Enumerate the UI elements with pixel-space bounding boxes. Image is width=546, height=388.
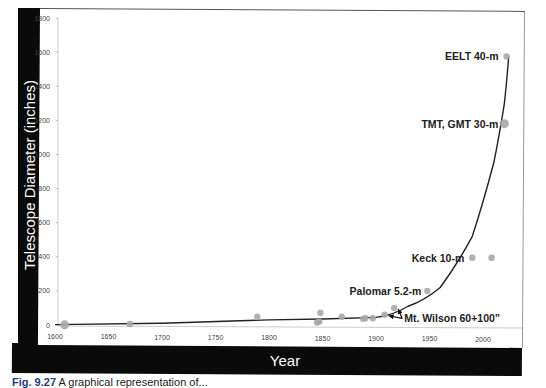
data-point [391, 305, 397, 311]
data-point [127, 321, 133, 327]
x-tick-label: 1850 [315, 335, 331, 342]
annotation-label: EELT 40-m [445, 50, 498, 62]
x-tick-label: 1600 [47, 333, 63, 340]
y-axis-label: Telescope Diameter (inches) [21, 80, 38, 270]
y-tick-label: 0 [46, 322, 50, 329]
x-tick-label: 1900 [368, 335, 384, 342]
x-tick-label: 2000 [475, 336, 491, 343]
y-tick-label: 800 [38, 185, 50, 192]
y-tick-label: 1800 [34, 15, 50, 22]
annotation-label: Mt. Wilson 60+100” [404, 312, 500, 324]
x-tick-label: 1750 [208, 334, 224, 341]
data-point [339, 314, 345, 320]
x-tick-label: 1950 [422, 335, 438, 342]
data-point [503, 53, 509, 59]
data-point [60, 320, 69, 329]
data-point [424, 288, 430, 294]
data-point [254, 313, 260, 319]
annotation-label: Keck 10-m [412, 252, 465, 264]
caption-text: A graphical representation of... [58, 376, 207, 388]
data-point [488, 255, 494, 261]
figure-caption: Fig. 9.27 A graphical representation of.… [12, 376, 208, 388]
x-tick-label: 1800 [261, 334, 277, 341]
data-point [469, 255, 475, 261]
axes: 0200400600800100012001400160018001600165… [34, 15, 522, 343]
data-point [316, 318, 322, 324]
caption-label: Fig. 9.27 [12, 376, 56, 388]
data-point [381, 312, 387, 318]
annotations: EELT 40-mTMT, GMT 30-mKeck 10-mPalomar 5… [350, 50, 501, 323]
data-points [60, 53, 510, 329]
x-tick-label: 1700 [154, 334, 170, 341]
data-point [500, 119, 509, 128]
y-tick-label: 400 [38, 253, 50, 260]
annotation-label: Palomar 5.2-m [350, 285, 422, 297]
y-tick-label: 600 [38, 219, 50, 226]
data-point [362, 315, 368, 321]
trend-line [55, 56, 509, 324]
x-axis-label: Year [270, 352, 300, 369]
data-point [317, 310, 323, 316]
x-tick-label: 1650 [101, 333, 117, 340]
y-tick-label: 200 [38, 287, 50, 294]
data-point [370, 315, 376, 321]
y-tick-label: 1600 [34, 49, 50, 56]
annotation-label: TMT, GMT 30-m [421, 118, 498, 130]
